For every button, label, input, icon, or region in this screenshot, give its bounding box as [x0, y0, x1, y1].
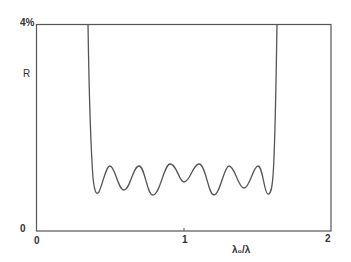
reflectance-curve: [88, 24, 277, 195]
x-axis-title: λ₀/λ: [232, 245, 250, 255]
reflectance-chart: [0, 0, 351, 262]
x-label-1: 1: [182, 235, 188, 245]
x-label-0: 0: [34, 236, 40, 246]
y-bottom-label: 0: [20, 224, 26, 234]
plot-frame: [37, 25, 332, 232]
y-top-label: 4%: [20, 18, 34, 28]
y-axis-title: R: [23, 69, 30, 79]
x-label-2: 2: [325, 234, 331, 244]
